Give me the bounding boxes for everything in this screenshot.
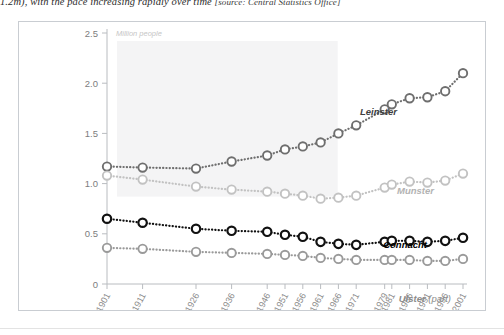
data-point (138, 219, 146, 227)
x-tick-label: 1956 (290, 291, 308, 310)
data-point (281, 251, 289, 259)
data-point (103, 171, 111, 179)
x-tick-label: 1936 (219, 291, 237, 310)
data-point (263, 228, 271, 236)
data-point (405, 256, 413, 264)
data-point (316, 194, 324, 202)
figure-caption: 1.2m), with the pace increasing rapidly … (0, 0, 504, 7)
x-tick-label: 1951 (272, 291, 290, 310)
data-point (459, 69, 467, 77)
x-tick-label: 1946 (254, 291, 272, 310)
data-point (227, 249, 235, 257)
data-point (423, 93, 431, 101)
y-tick-label: 1.0 (85, 178, 98, 189)
data-point (138, 245, 146, 253)
population-line-chart: 00.51.01.52.02.5190119111926193619461951… (19, 22, 485, 310)
data-point (334, 129, 342, 137)
series-label-name: Ulster (399, 293, 427, 304)
data-point (103, 162, 111, 170)
plot-background (117, 41, 338, 197)
data-point (138, 175, 146, 183)
data-point (441, 257, 449, 265)
data-point (441, 237, 449, 245)
data-point (316, 238, 324, 246)
data-point (192, 164, 200, 172)
x-tick-label: 1971 (343, 291, 361, 310)
data-point (103, 215, 111, 223)
data-point (138, 163, 146, 171)
series-label-qualifier: (part) (426, 293, 451, 304)
data-point (299, 191, 307, 199)
data-point (459, 234, 467, 242)
series-label-leinster: Leinster (360, 106, 398, 117)
series-label-ulster-part: Ulster (part) (399, 293, 451, 304)
data-point (316, 254, 324, 262)
y-axis-unit-label: Million people (116, 29, 162, 38)
data-point (405, 94, 413, 102)
data-point (299, 252, 307, 260)
data-point (103, 244, 111, 252)
x-tick-label: 2001 (450, 291, 468, 310)
x-tick-label: 1911 (130, 291, 148, 310)
series-label-munster: Munster (397, 185, 435, 196)
data-point (227, 185, 235, 193)
data-point (352, 241, 360, 249)
data-point (299, 142, 307, 150)
data-point (352, 256, 360, 264)
data-point (441, 87, 449, 95)
data-point (263, 187, 271, 195)
data-point (316, 138, 324, 146)
caption-text: 1.2m), with the pace increasing rapidly … (0, 0, 212, 7)
data-point (334, 193, 342, 201)
x-tick-label: 1961 (308, 291, 326, 310)
data-point (388, 180, 396, 188)
data-point (192, 182, 200, 190)
y-tick-label: 0 (93, 279, 98, 290)
plot-shade (117, 41, 338, 197)
data-point (459, 255, 467, 263)
data-point (192, 225, 200, 233)
data-point (227, 157, 235, 165)
data-point (352, 191, 360, 199)
x-tick-label: 1966 (325, 291, 343, 310)
y-tick-label: 0.5 (85, 228, 98, 239)
data-point (281, 189, 289, 197)
data-point (227, 227, 235, 235)
data-point (388, 256, 396, 264)
data-point (299, 233, 307, 241)
data-point (263, 250, 271, 258)
data-point (334, 240, 342, 248)
data-point (281, 145, 289, 153)
data-point (281, 231, 289, 239)
chart-figure: 00.51.01.52.02.5190119111926193619461951… (18, 21, 486, 311)
x-tick-label: 1901 (94, 291, 112, 310)
data-point (192, 248, 200, 256)
data-point (459, 169, 467, 177)
caption-source: [source: Central Statistics Office] (215, 0, 341, 7)
data-point (263, 151, 271, 159)
x-tick-label: 1926 (183, 291, 201, 310)
data-point (423, 257, 431, 265)
y-tick-label: 2.5 (85, 28, 98, 39)
series-label-connacht: Connacht (383, 239, 428, 250)
data-point (441, 176, 449, 184)
y-tick-label: 2.0 (85, 78, 98, 89)
y-tick-label: 1.5 (85, 128, 98, 139)
data-point (352, 121, 360, 129)
data-point (334, 255, 342, 263)
page-rule (0, 328, 504, 329)
